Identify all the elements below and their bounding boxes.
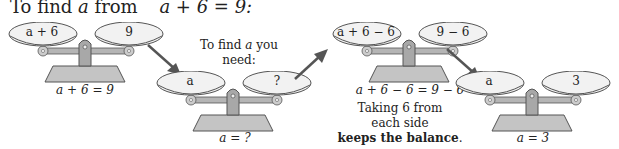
note-text: you [256,38,278,52]
right-pan-label: 3 [545,74,607,88]
left-pan-label: a [458,74,520,88]
left-pan-label: a + 6 [11,25,73,39]
scale-4-caption: a = 3 [478,131,588,145]
right-pan-label: 9 − 6 [422,25,484,39]
left-pan-label: a [159,74,221,88]
note-variable: a [245,38,252,52]
title-variable: a [78,0,89,17]
note-text: need: [184,53,294,68]
caption-text: a + 6 = 9 [56,83,114,97]
balance-scale-1: a + 6 9 [5,22,165,84]
note-text: Taking 6 from [330,101,470,116]
right-pan-label: 9 [98,25,160,39]
caption-text: a = ? [219,131,250,145]
note-text: To find [200,38,242,52]
balance-scale-2: a ? [153,71,313,133]
note-text: . [459,131,463,145]
caption-text: a = 3 [517,131,549,145]
need-note: To find a you need: [184,38,294,68]
balance-note: Taking 6 from each side keeps the balanc… [330,101,470,146]
title-middle: from [95,0,138,17]
caption-text: a + 6 − 6 = 9 − 6 [356,83,464,97]
note-bold-text: keeps the balance [338,131,459,145]
scale-1-caption: a + 6 = 9 [30,83,140,97]
scale-2-caption: a = ? [180,131,290,145]
arrow-up-right-icon [292,46,332,82]
balance-scale-4: a 3 [452,71,612,133]
title-prefix: To find [10,0,72,17]
left-pan-label: a + 6 − 6 [335,25,397,39]
diagram-title: To find a from a + 6 = 9: [10,0,252,17]
title-equation: a + 6 = 9: [159,0,252,17]
note-text: each side [330,116,470,131]
